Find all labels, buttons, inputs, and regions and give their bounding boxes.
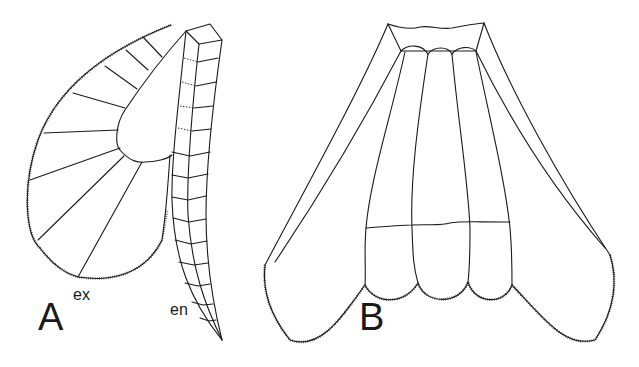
exopod [27, 25, 186, 278]
basal-plate [388, 23, 484, 28]
label-exopod: ex [73, 286, 90, 303]
telson [365, 52, 512, 300]
left-uropod [264, 24, 401, 342]
right-uropod [476, 23, 614, 341]
figure-canvas: A ex en [0, 0, 639, 367]
panel-a-drawing [27, 24, 222, 340]
panel-label-b: B [359, 296, 384, 338]
endopod [172, 24, 222, 340]
panel-b-drawing [264, 23, 614, 342]
label-endopod: en [170, 301, 188, 318]
panel-label-a: A [38, 296, 64, 338]
